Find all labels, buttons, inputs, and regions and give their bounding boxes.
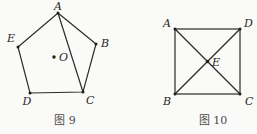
label-b: B	[100, 37, 109, 50]
label-a: A	[162, 17, 171, 30]
label-a: A	[53, 0, 62, 13]
intersection-dot-e	[206, 60, 209, 63]
geometry-figures: A B C D E O 图 9 A D B C E 图 10	[0, 0, 257, 134]
label-c: C	[86, 94, 95, 107]
corner-dot-a	[174, 28, 177, 31]
center-dot-o	[52, 55, 55, 58]
label-d: D	[22, 95, 32, 108]
figure-10: A D B C E 图 10	[162, 17, 254, 127]
corner-dot-b	[174, 93, 177, 96]
corner-dot-c	[239, 93, 242, 96]
label-c: C	[245, 95, 254, 108]
label-b: B	[162, 95, 171, 108]
label-e: E	[6, 32, 15, 45]
label-e: E	[211, 56, 220, 69]
vertex-dot-e	[17, 46, 20, 49]
vertex-dot-b	[95, 43, 98, 46]
figure-9: A B C D E O 图 9	[6, 0, 109, 127]
figure10-caption: 图 10	[199, 114, 228, 127]
vertex-dot-c	[82, 91, 85, 94]
corner-dot-d	[239, 28, 242, 31]
figure9-caption: 图 9	[54, 114, 76, 127]
pentagon-outline	[18, 13, 96, 93]
page: A B C D E O 图 9 A D B C E 图 10	[0, 0, 257, 134]
label-o: O	[59, 51, 68, 64]
label-d: D	[243, 17, 253, 30]
